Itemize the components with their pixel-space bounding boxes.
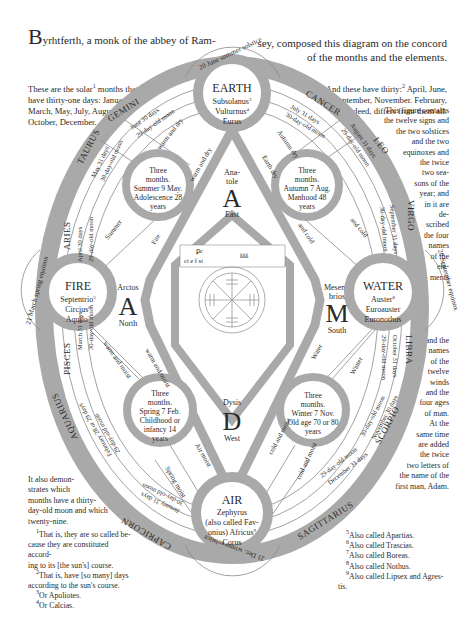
svg-text:Three: Three (149, 166, 167, 175)
byrhtferth-diagram: ꝑc ct e f st ßßß Ana- tole A East Arctos… (0, 0, 465, 620)
svg-text:Septentrio5: Septentrio5 (60, 295, 96, 304)
center-panel: ꝑc ct e f st ßßß (180, 245, 285, 267)
svg-text:April 30 days: April 30 days (76, 226, 83, 262)
svg-text:Euronothus: Euronothus (365, 315, 402, 324)
svg-text:Summer: Summer (103, 218, 123, 241)
center-wheel (199, 267, 265, 333)
svg-text:Winter 7 Nov.: Winter 7 Nov. (292, 409, 335, 418)
svg-text:Eurus: Eurus (223, 117, 242, 126)
svg-text:March 31 days: March 31 days (76, 311, 83, 350)
season-summer: Three months. Summer 9 May. Adolescence … (126, 153, 190, 217)
svg-text:months.: months. (301, 400, 325, 409)
letter-m-south: M (325, 299, 348, 328)
svg-text:South: South (328, 326, 347, 335)
svg-text:Euroauster: Euroauster (366, 305, 401, 314)
svg-text:29-day-old moon: 29-day-old moon (381, 335, 388, 381)
zodiac-pisces: PISCES (62, 342, 72, 375)
svg-text:months.: months. (295, 175, 319, 184)
svg-text:Autumn 7 Aug.: Autumn 7 Aug. (283, 184, 330, 193)
svg-text:years: years (305, 427, 321, 436)
zodiac-sagittarius: SAGITTARIUS (296, 499, 355, 541)
svg-text:WATER: WATER (363, 279, 403, 293)
svg-text:Ana-: Ana- (224, 168, 240, 177)
svg-text:Adolescence 28: Adolescence 28 (134, 193, 182, 202)
svg-text:months.: months. (148, 398, 172, 407)
svg-text:Childhood or: Childhood or (140, 416, 181, 425)
zodiac-virgo: VIRGO (406, 200, 416, 231)
svg-text:onius) Africus9: onius) Africus9 (208, 528, 257, 537)
season-spring: Three months. Spring 7 Feb. Childhood or… (127, 377, 193, 443)
svg-text:FIRE: FIRE (65, 279, 91, 293)
svg-text:years: years (152, 434, 168, 443)
svg-text:Three: Three (304, 391, 322, 400)
svg-text:(also called Fav-: (also called Fav- (205, 518, 259, 527)
svg-text:and cold: and cold (349, 216, 370, 239)
runes-line2: ct e f st (184, 257, 203, 264)
svg-text:29-day-old moon: 29-day-old moon (87, 216, 94, 262)
svg-text:Water: Water (310, 342, 324, 360)
zodiac-aries: ARIES (62, 221, 72, 250)
svg-text:Three: Three (151, 389, 169, 398)
svg-text:years: years (299, 202, 315, 211)
svg-text:Auster8: Auster8 (371, 295, 395, 304)
svg-text:Fire: Fire (150, 233, 162, 246)
zodiac-libra: LIBRA (404, 335, 414, 365)
runes-line1: ꝑc (195, 247, 203, 255)
autumn-equinox-label: 20 September equinox (436, 248, 460, 311)
svg-text:Dysis: Dysis (223, 398, 241, 407)
svg-text:Three: Three (298, 166, 316, 175)
svg-text:West: West (224, 434, 241, 443)
svg-text:warm and moist: warm and moist (102, 340, 133, 380)
svg-text:Winter: Winter (349, 355, 364, 375)
svg-text:EARTH: EARTH (212, 81, 252, 95)
svg-text:Summer 9 May.: Summer 9 May. (134, 184, 183, 193)
svg-text:Subsolanus3: Subsolanus3 (213, 97, 252, 106)
element-water: WATER Auster8 Euroauster Euronothus (349, 258, 417, 326)
svg-text:Vulturnus4: Vulturnus4 (215, 107, 250, 116)
svg-text:cold and moist: cold and moist (295, 441, 318, 480)
svg-text:infancy 14: infancy 14 (144, 425, 176, 434)
svg-text:Zephyrus: Zephyrus (217, 508, 247, 517)
svg-text:months.: months. (146, 175, 170, 184)
svg-text:30-day-old moon: 30-day-old moon (379, 206, 390, 252)
svg-text:AIR: AIR (222, 493, 243, 507)
runes-right: ßßß (240, 253, 249, 259)
svg-text:Manhood 48: Manhood 48 (288, 193, 327, 202)
letter-a-north: A (119, 292, 138, 321)
svg-text:October 31 days: October 31 days (392, 335, 399, 378)
svg-text:North: North (119, 319, 138, 328)
season-autumn: Three months. Autumn 7 Aug. Manhood 48 y… (275, 153, 339, 217)
letter-a-east: A (223, 184, 242, 213)
svg-text:30-day-old moon: 30-day-old moon (87, 304, 94, 350)
svg-text:Old age 70 or 80: Old age 70 or 80 (287, 418, 338, 427)
svg-text:Arctos: Arctos (117, 283, 138, 292)
svg-text:East: East (225, 210, 240, 219)
svg-text:and cold: and cold (297, 222, 316, 246)
letter-d-west: D (223, 407, 242, 436)
svg-text:Spring 7 Feb.: Spring 7 Feb. (139, 407, 180, 416)
season-winter: Three months. Winter 7 Nov. Old age 70 o… (280, 377, 346, 443)
element-earth: EARTH Subsolanus3 Vulturnus4 Eurus (198, 59, 266, 127)
svg-text:years: years (150, 202, 166, 211)
